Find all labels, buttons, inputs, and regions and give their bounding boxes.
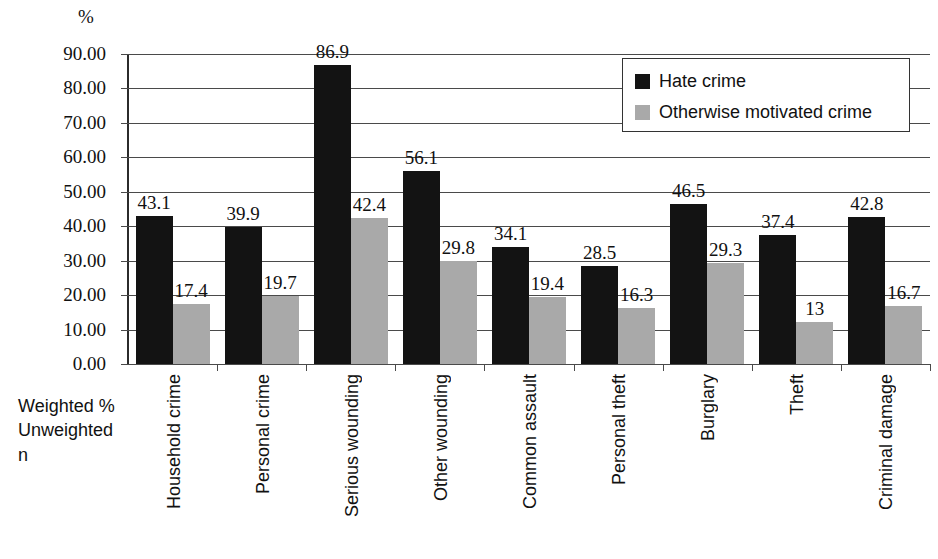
bar-group: 34.119.4: [484, 54, 573, 364]
axis-note: Weighted %Unweighted n: [18, 394, 128, 467]
bar-value-label: 16.7: [887, 282, 920, 304]
bar: [225, 227, 262, 364]
y-tick-label: 50.00: [0, 181, 118, 203]
axis-note-line: Weighted %: [18, 394, 128, 418]
bar-group: 56.129.8: [395, 54, 484, 364]
y-tickmark: [121, 295, 128, 296]
bar-value-label: 46.5: [672, 180, 705, 202]
bar-chart: % 90.0080.0070.0060.0050.0040.0030.0020.…: [0, 0, 938, 559]
bar-group: 39.919.7: [217, 54, 306, 364]
bar-value-label: 42.4: [353, 194, 386, 216]
gridline: [128, 364, 930, 365]
y-tick-label: 0.00: [0, 353, 118, 375]
bar: [885, 306, 922, 364]
y-axis-tick-labels: 90.0080.0070.0060.0050.0040.0030.0020.00…: [0, 0, 118, 559]
x-tickmark: [930, 364, 931, 371]
bar-group: 86.942.4: [306, 54, 395, 364]
y-tick-label: 40.00: [0, 215, 118, 237]
x-tick-label: Serious wounding: [342, 374, 363, 517]
bar-value-label: 86.9: [316, 41, 349, 63]
bar: [492, 247, 529, 364]
bar: [707, 263, 744, 364]
x-tick-label: Other wounding: [431, 374, 452, 501]
legend-label: Otherwise motivated crime: [659, 102, 872, 123]
bar-value-label: 19.7: [264, 272, 297, 294]
x-tick-label: Criminal damage: [876, 374, 897, 510]
y-tick-label: 60.00: [0, 146, 118, 168]
y-tickmark: [121, 364, 128, 365]
x-tick-label: Common assault: [520, 374, 541, 509]
bar-value-label: 43.1: [137, 192, 170, 214]
bar-value-label: 29.8: [442, 237, 475, 259]
x-tick-label: Personal crime: [253, 374, 274, 494]
legend-item[interactable]: Hate crime: [635, 66, 899, 97]
bar: [848, 217, 885, 364]
legend-item[interactable]: Otherwise motivated crime: [635, 97, 899, 128]
bar: [403, 171, 440, 364]
axis-note-line: Unweighted n: [18, 418, 128, 467]
bar-value-label: 39.9: [227, 203, 260, 225]
bar: [173, 304, 210, 364]
bar: [529, 297, 566, 364]
x-axis-tick-labels: Household crimePersonal crimeSerious wou…: [128, 368, 930, 559]
bar: [759, 235, 796, 364]
y-tickmark: [121, 157, 128, 158]
bar: [440, 261, 477, 364]
y-tickmark: [121, 330, 128, 331]
bar-value-label: 17.4: [174, 280, 207, 302]
bar-value-label: 13: [805, 298, 824, 320]
bar: [136, 216, 173, 364]
bar: [670, 204, 707, 364]
bar-value-label: 42.8: [850, 193, 883, 215]
x-tick-label: Personal theft: [609, 374, 630, 485]
y-tick-label: 30.00: [0, 250, 118, 272]
y-tickmark: [121, 123, 128, 124]
legend-swatch-icon: [635, 74, 650, 89]
y-tick-label: 10.00: [0, 319, 118, 341]
bar-value-label: 28.5: [583, 242, 616, 264]
bar: [262, 296, 299, 364]
y-tick-label: 80.00: [0, 77, 118, 99]
y-tickmark: [121, 88, 128, 89]
bar-value-label: 37.4: [761, 211, 794, 233]
y-tick-label: 70.00: [0, 112, 118, 134]
bar: [796, 322, 833, 364]
bar-value-label: 34.1: [494, 223, 527, 245]
legend-swatch-icon: [635, 105, 650, 120]
x-tick-label: Burglary: [698, 374, 719, 441]
bar-value-label: 16.3: [620, 284, 653, 306]
bar: [314, 65, 351, 364]
bar-value-label: 29.3: [709, 239, 742, 261]
bar-group: 43.117.4: [128, 54, 217, 364]
bar: [581, 266, 618, 364]
bar: [351, 218, 388, 364]
y-tickmark: [121, 54, 128, 55]
bar-value-label: 19.4: [531, 273, 564, 295]
x-tick-label: Household crime: [164, 374, 185, 509]
y-tickmark: [121, 261, 128, 262]
y-tick-label: 90.00: [0, 43, 118, 65]
chart-legend: Hate crimeOtherwise motivated crime: [622, 58, 910, 132]
bar-value-label: 56.1: [405, 147, 438, 169]
legend-label: Hate crime: [659, 71, 746, 92]
bar: [618, 308, 655, 364]
y-tickmark: [121, 192, 128, 193]
y-tickmark: [121, 226, 128, 227]
x-tick-label: Theft: [787, 374, 808, 415]
y-tick-label: 20.00: [0, 284, 118, 306]
